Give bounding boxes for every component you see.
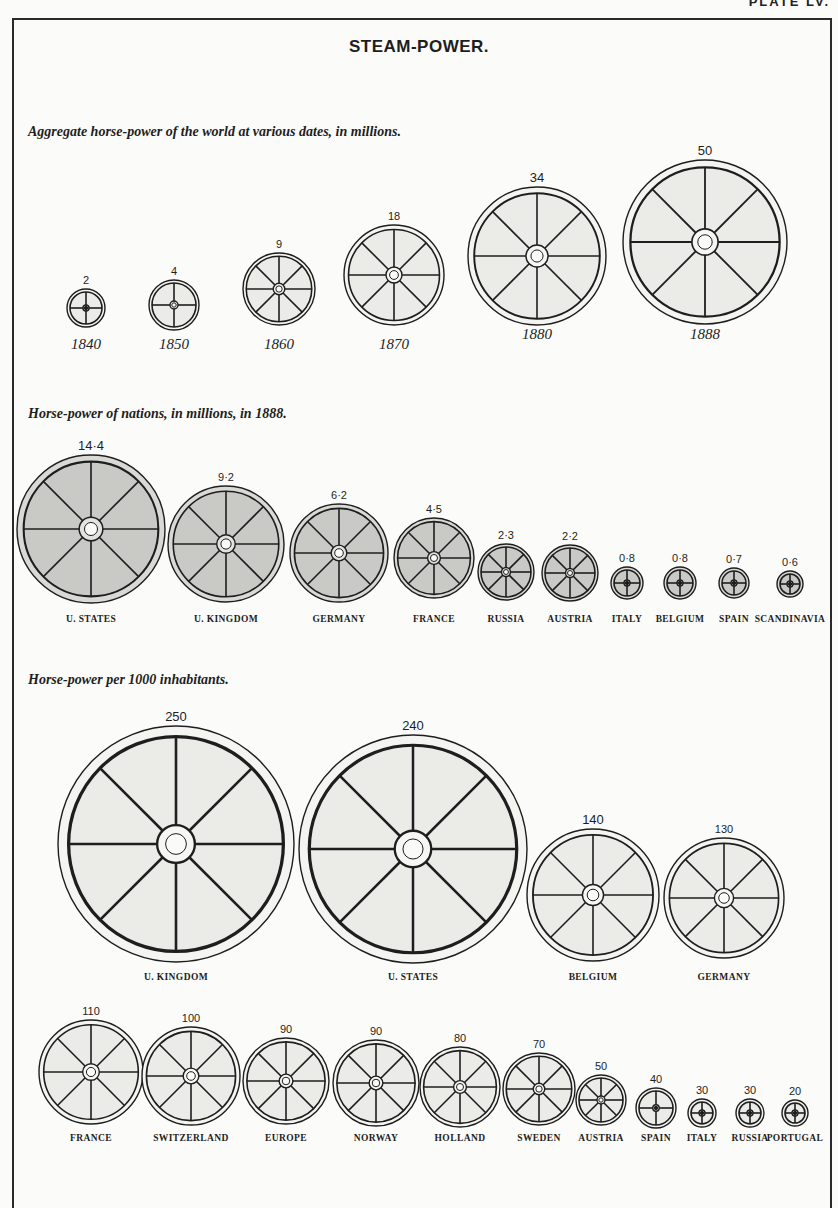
country-label: NORWAY (354, 1133, 398, 1143)
wheel-europe: 90EUROPE (243, 1023, 329, 1143)
country-label: AUSTRIA (578, 1133, 624, 1143)
wheel-switzerland: 100SWITZERLAND (142, 1012, 240, 1143)
wheel-austria: 50AUSTRIA (576, 1060, 626, 1143)
wheel-france: 110FRANCE (39, 1005, 143, 1143)
value-label: 250 (165, 709, 187, 724)
country-label: ITALY (687, 1133, 718, 1143)
value-label: 80 (454, 1032, 466, 1044)
value-label: 100 (182, 1012, 200, 1024)
value-label: 130 (715, 823, 733, 835)
country-label: SPAIN (641, 1133, 671, 1143)
wheel-portugal: 20PORTUGAL (767, 1085, 824, 1143)
wheel-germany: 130GERMANY (664, 823, 784, 982)
country-label: U. STATES (388, 972, 438, 982)
value-label: 70 (533, 1038, 545, 1050)
country-label: HOLLAND (435, 1133, 486, 1143)
value-label: 240 (402, 718, 424, 733)
country-label: GERMANY (698, 972, 751, 982)
country-label: BELGIUM (569, 972, 618, 982)
wheel-sweden: 70SWEDEN (503, 1038, 575, 1143)
value-label: 90 (280, 1023, 292, 1035)
value-label: 20 (789, 1085, 801, 1097)
value-label: 40 (650, 1073, 662, 1085)
country-label: U. KINGDOM (144, 972, 208, 982)
value-label: 90 (370, 1025, 382, 1037)
country-label: PORTUGAL (767, 1133, 824, 1143)
value-label: 50 (595, 1060, 607, 1072)
wheel-holland: 80HOLLAND (420, 1032, 500, 1143)
country-label: FRANCE (70, 1133, 112, 1143)
wheel-russia: 30RUSSIA (731, 1084, 768, 1143)
wheel-spain: 40SPAIN (636, 1073, 676, 1143)
wheel-italy: 30ITALY (687, 1084, 718, 1143)
country-label: RUSSIA (731, 1133, 768, 1143)
country-label: SWITZERLAND (153, 1133, 229, 1143)
value-label: 30 (744, 1084, 756, 1096)
country-label: SWEDEN (517, 1133, 561, 1143)
country-label: EUROPE (265, 1133, 307, 1143)
wheel-norway: 90NORWAY (333, 1025, 419, 1143)
value-label: 110 (82, 1005, 100, 1017)
wheel-u-states: 240U. STATES (299, 718, 527, 982)
value-label: 30 (696, 1084, 708, 1096)
wheel-u-kingdom: 250U. KINGDOM (58, 709, 294, 982)
value-label: 140 (582, 812, 604, 827)
wheel-belgium: 140BELGIUM (527, 812, 659, 982)
